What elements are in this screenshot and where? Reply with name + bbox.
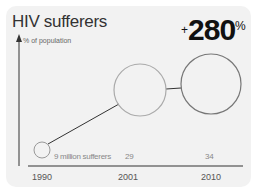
year-1990: 1990: [32, 172, 52, 182]
bubble-2010: [181, 54, 241, 114]
label-1990: 9 million sufferers: [54, 152, 111, 161]
bubble-1990: [34, 142, 50, 158]
headline-percent: %: [235, 19, 246, 33]
y-axis-arrow-icon: [16, 34, 22, 42]
bubble-2001: [114, 64, 166, 116]
y-axis-label: % of population: [23, 37, 71, 44]
headline-change: +280%: [181, 13, 246, 47]
headline-value: 280: [188, 13, 235, 46]
year-2001: 2001: [118, 172, 138, 182]
connector-line-1: [48, 104, 119, 144]
headline-plus: +: [181, 23, 188, 37]
label-2010: 34: [205, 152, 213, 161]
connector-line-2: [166, 88, 181, 89]
label-2001: 29: [125, 152, 133, 161]
year-2010: 2010: [201, 172, 221, 182]
